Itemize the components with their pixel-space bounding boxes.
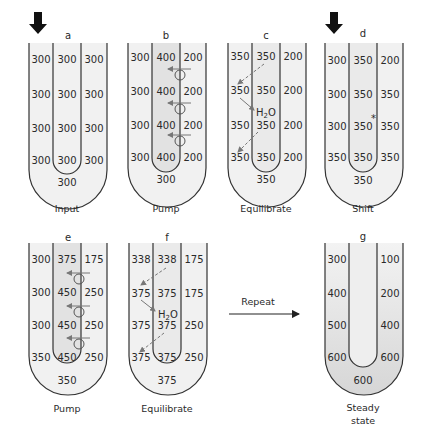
value: 200: [183, 52, 202, 63]
value: 300: [57, 54, 76, 65]
value: 350: [353, 121, 372, 132]
panel-letter: a: [65, 30, 71, 41]
value: 300: [84, 155, 103, 166]
value: 450: [57, 352, 76, 363]
value: 350: [256, 152, 275, 163]
value: 175: [184, 254, 203, 265]
value: 250: [184, 320, 203, 331]
value: 450: [57, 287, 76, 298]
value: 300: [57, 155, 76, 166]
panel-letter: c: [263, 30, 269, 41]
panel-letter: b: [163, 30, 169, 41]
value: 338: [157, 254, 176, 265]
panel-f: f 338 375 375 375 338 375 375 375 175 17…: [129, 232, 207, 414]
value: 300: [57, 89, 76, 100]
value: 350: [230, 120, 249, 131]
repeat-label: Repeat: [241, 296, 275, 307]
value: 400: [156, 152, 175, 163]
panel-caption: Equilibrate: [141, 403, 192, 414]
value: 350: [256, 174, 275, 185]
panel-caption: Input: [55, 203, 80, 214]
value: 200: [283, 120, 302, 131]
value: 300: [84, 89, 103, 100]
panel-caption: Steady: [346, 402, 379, 413]
panel-c: c 350 350 350 350 350 350 350 350 200 20…: [228, 30, 306, 214]
value: 350: [256, 85, 275, 96]
value: 200: [283, 152, 302, 163]
panel-b: b 300 300 300 300 400 400 400 400 200 20…: [128, 30, 206, 214]
value: 300: [130, 52, 149, 63]
value: 175: [84, 254, 103, 265]
panel-letter: f: [165, 232, 169, 243]
value: 300: [31, 155, 50, 166]
value: 500: [327, 320, 346, 331]
value: 300: [31, 54, 50, 65]
value: 200: [283, 51, 302, 62]
panel-caption: Shift: [352, 203, 374, 214]
panel-a: a 300 300 300 300 300 300 300 300 300 30…: [29, 12, 107, 214]
value: 300: [84, 123, 103, 134]
asterisk-marker: *: [371, 113, 376, 124]
value: 375: [157, 375, 176, 386]
value: 300: [327, 121, 346, 132]
value: 350: [353, 89, 372, 100]
value: 350: [256, 120, 275, 131]
value: 400: [327, 288, 346, 299]
value: 300: [31, 254, 50, 265]
value: 200: [183, 152, 202, 163]
value: 200: [183, 120, 202, 131]
value: 375: [131, 320, 150, 331]
value: 300: [31, 123, 50, 134]
value: 350: [57, 375, 76, 386]
value: 350: [327, 152, 346, 163]
input-arrow-icon: [325, 12, 343, 34]
value: 375: [157, 352, 176, 363]
value: 250: [184, 352, 203, 363]
value: 200: [283, 85, 302, 96]
value: 375: [157, 288, 176, 299]
value: 200: [380, 55, 399, 66]
value: 300: [327, 89, 346, 100]
value: 300: [57, 123, 76, 134]
value: 300: [327, 254, 346, 265]
value: 300: [327, 55, 346, 66]
value: 300: [57, 177, 76, 188]
value: 400: [156, 120, 175, 131]
value: 300: [156, 174, 175, 185]
panel-letter: g: [360, 231, 366, 242]
value: 350: [380, 89, 399, 100]
value: 350: [256, 51, 275, 62]
panel-letter: d: [360, 28, 366, 39]
value: 300: [31, 320, 50, 331]
value: 300: [130, 152, 149, 163]
value: 175: [184, 288, 203, 299]
value: 100: [380, 254, 399, 265]
panel-g: g 300 400 500 600 100 200 400 600 600 St…: [325, 231, 403, 426]
value: 300: [84, 54, 103, 65]
value: 375: [57, 254, 76, 265]
panel-e: e 300 300 300 350 375 450 450 450 175 25…: [29, 232, 107, 414]
value: 250: [84, 352, 103, 363]
panel-caption: Equilibrate: [240, 203, 291, 214]
value: 300: [31, 89, 50, 100]
value: 350: [230, 85, 249, 96]
value: 250: [84, 287, 103, 298]
panel-caption: state: [351, 415, 375, 426]
countercurrent-multiplier-diagram: a 300 300 300 300 300 300 300 300 300 30…: [0, 0, 423, 437]
value: 338: [131, 254, 150, 265]
value: 350: [353, 152, 372, 163]
value: 400: [380, 320, 399, 331]
value: 600: [380, 352, 399, 363]
panel-letter: e: [65, 232, 71, 243]
value: 350: [380, 121, 399, 132]
value: 200: [183, 86, 202, 97]
value: 350: [353, 55, 372, 66]
value: 600: [353, 375, 372, 386]
value: 350: [353, 175, 372, 186]
value: 300: [31, 287, 50, 298]
value: 350: [31, 352, 50, 363]
value: 300: [130, 120, 149, 131]
value: 300: [130, 86, 149, 97]
value: 450: [57, 320, 76, 331]
value: 600: [327, 352, 346, 363]
